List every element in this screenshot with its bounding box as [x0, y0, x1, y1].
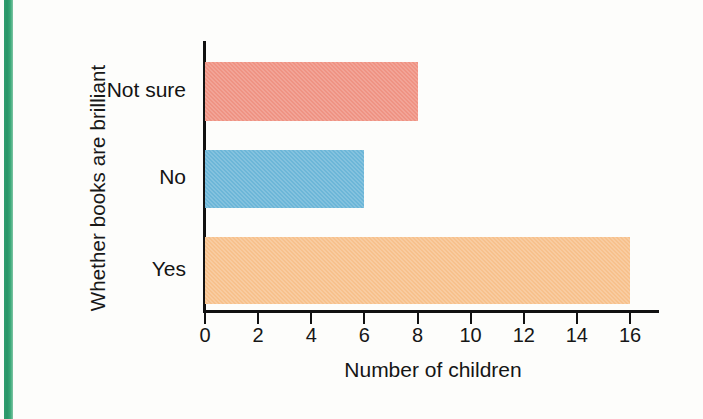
x-axis-tick	[576, 313, 578, 324]
x-axis-tick	[417, 313, 419, 324]
x-axis-title: Number of children	[205, 358, 661, 382]
x-axis-tick-label: 6	[344, 324, 384, 347]
plot-area: 0246810121416 Not sureNoYes	[0, 0, 703, 419]
x-axis-tick-label: 2	[238, 324, 278, 347]
x-axis-tick	[470, 313, 472, 324]
bar-no	[205, 150, 364, 208]
bar-not-sure	[205, 62, 418, 121]
category-label-not-sure: Not sure	[107, 78, 186, 102]
x-axis-tick	[629, 313, 631, 324]
x-axis-tick-label: 8	[398, 324, 438, 347]
x-axis-tick-label: 0	[185, 324, 225, 347]
x-axis-tick-label: 14	[557, 324, 597, 347]
x-axis-tick-label: 12	[504, 324, 544, 347]
x-axis-line	[203, 310, 659, 313]
category-label-no: No	[159, 165, 186, 189]
x-axis-tick	[257, 313, 259, 324]
chart-page: Whether books are brilliant 024681012141…	[0, 0, 703, 419]
category-label-yes: Yes	[152, 257, 186, 281]
x-axis-tick	[363, 313, 365, 324]
x-axis-tick-label: 16	[610, 324, 650, 347]
x-axis-tick	[310, 313, 312, 324]
bar-yes	[205, 237, 630, 304]
x-axis-tick-label: 4	[291, 324, 331, 347]
x-axis-tick	[523, 313, 525, 324]
x-axis-tick-label: 10	[451, 324, 491, 347]
x-axis-tick	[204, 313, 206, 324]
